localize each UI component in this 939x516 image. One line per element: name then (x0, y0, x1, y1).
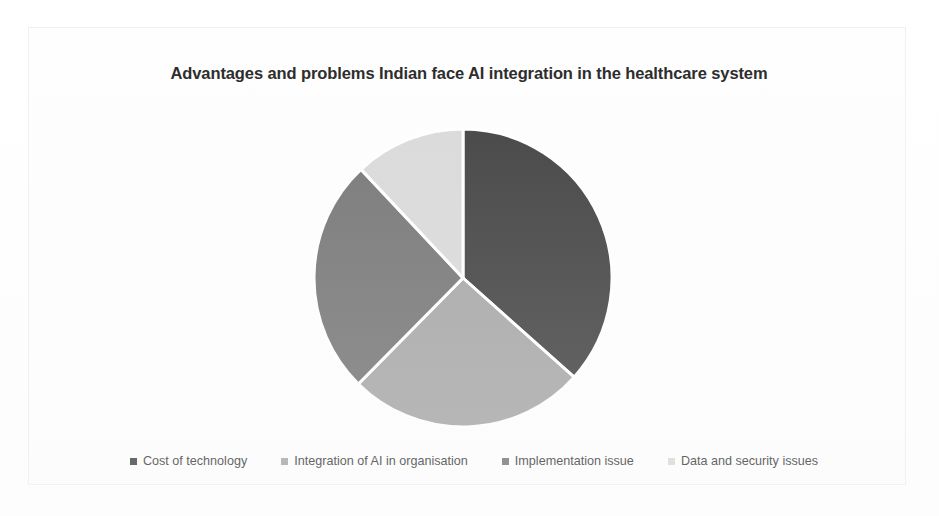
legend-label-integration-of-ai-in-organisation: Integration of AI in organisation (294, 455, 468, 468)
chart-legend: Cost of technology Integration of AI in … (74, 455, 874, 468)
legend-label-data-and-security-issues: Data and security issues (681, 455, 818, 468)
legend-swatch-implementation-issue (502, 458, 509, 465)
legend-swatch-cost-of-technology (130, 458, 137, 465)
legend-item-cost-of-technology[interactable]: Cost of technology (130, 455, 247, 468)
chart-frame: Advantages and problems Indian face AI i… (28, 27, 906, 485)
legend-item-implementation-issue[interactable]: Implementation issue (502, 455, 634, 468)
legend-item-data-and-security-issues[interactable]: Data and security issues (668, 455, 818, 468)
pie-chart[interactable] (312, 127, 614, 429)
legend-item-integration-of-ai-in-organisation[interactable]: Integration of AI in organisation (281, 455, 468, 468)
legend-swatch-integration-of-ai-in-organisation (281, 458, 288, 465)
pie-svg (312, 127, 614, 429)
legend-label-implementation-issue: Implementation issue (515, 455, 634, 468)
legend-swatch-data-and-security-issues (668, 458, 675, 465)
chart-title: Advantages and problems Indian face AI i… (119, 62, 819, 85)
pie-slice-group (314, 129, 612, 427)
legend-label-cost-of-technology: Cost of technology (143, 455, 247, 468)
